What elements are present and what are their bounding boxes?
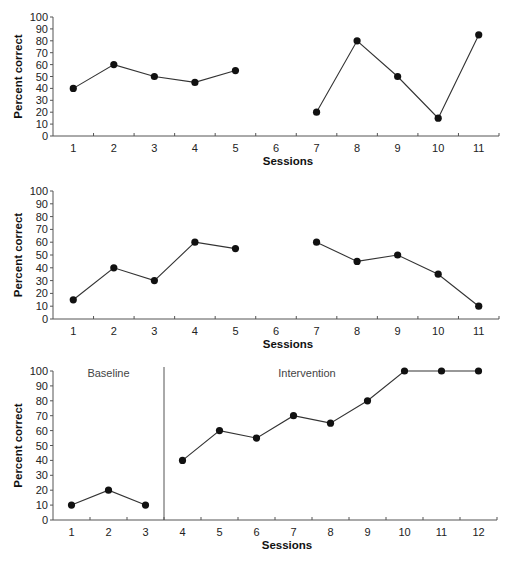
data-point — [313, 109, 320, 116]
data-point — [110, 61, 117, 68]
x-tick-label: 2 — [111, 142, 117, 154]
y-tick-label: 100 — [30, 185, 48, 197]
data-point — [151, 277, 158, 284]
data-point — [151, 73, 158, 80]
data-point — [435, 271, 442, 278]
data-point — [353, 37, 360, 44]
y-tick-label: 50 — [36, 249, 48, 261]
y-tick-label: 20 — [36, 106, 48, 118]
phase-label-baseline: Baseline — [87, 367, 129, 379]
y-tick-label: 70 — [36, 410, 48, 422]
data-point — [191, 239, 198, 246]
y-tick-label: 90 — [36, 23, 48, 35]
x-tick-label: 8 — [327, 526, 333, 538]
y-tick-label: 80 — [36, 211, 48, 223]
y-tick-label: 30 — [36, 275, 48, 287]
x-tick-label: 12 — [472, 526, 484, 538]
data-point — [435, 115, 442, 122]
data-point — [70, 85, 77, 92]
y-tick-label: 40 — [36, 262, 48, 274]
data-point — [191, 79, 198, 86]
data-point — [253, 434, 260, 441]
x-tick-label: 7 — [313, 325, 319, 337]
x-tick-label: 2 — [111, 325, 117, 337]
x-tick-label: 6 — [253, 526, 259, 538]
x-tick-label: 11 — [473, 325, 484, 337]
x-tick-label: 6 — [273, 142, 279, 154]
data-line-segment-2 — [183, 371, 479, 460]
x-tick-label: 4 — [192, 325, 198, 337]
x-tick-label: 10 — [432, 325, 444, 337]
y-tick-label: 10 — [36, 300, 48, 312]
data-point — [68, 502, 75, 509]
x-tick-label: 5 — [232, 142, 238, 154]
data-point — [232, 67, 239, 74]
data-point — [313, 239, 320, 246]
data-point — [105, 487, 112, 494]
y-tick-label: 90 — [36, 380, 48, 392]
y-tick-label: 80 — [36, 395, 48, 407]
x-tick-label: 1 — [70, 142, 76, 154]
y-tick-label: 50 — [36, 71, 48, 83]
y-tick-label: 60 — [36, 59, 48, 71]
y-tick-label: 80 — [36, 35, 48, 47]
x-tick-label: 7 — [313, 142, 319, 154]
data-point — [394, 251, 401, 258]
data-line-segment-1 — [73, 242, 235, 300]
x-tick-label: 9 — [395, 325, 401, 337]
y-tick-label: 60 — [36, 425, 48, 437]
data-point — [327, 420, 334, 427]
data-point — [216, 427, 223, 434]
data-point — [475, 303, 482, 310]
x-tick-label: 9 — [364, 526, 370, 538]
x-tick-label: 8 — [354, 142, 360, 154]
data-point — [364, 397, 371, 404]
y-tick-label: 10 — [36, 499, 48, 511]
data-point — [438, 367, 445, 374]
y-tick-label: 40 — [36, 82, 48, 94]
y-tick-label: 100 — [30, 11, 48, 23]
y-tick-label: 20 — [36, 287, 48, 299]
x-tick-label: 4 — [179, 526, 185, 538]
x-tick-label: 3 — [151, 142, 157, 154]
y-axis-title: Percent correct — [12, 403, 24, 488]
y-tick-label: 0 — [42, 130, 48, 142]
chart-panel-1: 01020304050607080901001234567891011Sessi… — [12, 11, 499, 167]
x-axis-title: Sessions — [263, 155, 314, 167]
chart-panel-2: 01020304050607080901001234567891011Sessi… — [12, 185, 499, 350]
y-tick-label: 70 — [36, 47, 48, 59]
y-tick-label: 100 — [30, 365, 48, 377]
x-axis-title: Sessions — [262, 539, 313, 551]
x-tick-label: 10 — [432, 142, 444, 154]
y-tick-label: 30 — [36, 469, 48, 481]
x-tick-label: 11 — [436, 526, 447, 538]
x-tick-label: 5 — [232, 325, 238, 337]
y-tick-label: 90 — [36, 198, 48, 210]
y-tick-label: 0 — [42, 514, 48, 526]
data-point — [401, 367, 408, 374]
data-point — [142, 502, 149, 509]
x-tick-label: 6 — [273, 325, 279, 337]
x-tick-label: 9 — [395, 142, 401, 154]
y-tick-label: 60 — [36, 236, 48, 248]
data-point — [110, 264, 117, 271]
multi-panel-line-chart: 01020304050607080901001234567891011Sessi… — [0, 0, 510, 562]
data-point — [232, 245, 239, 252]
y-axis-title: Percent correct — [12, 34, 24, 119]
x-tick-label: 2 — [105, 526, 111, 538]
x-tick-label: 3 — [151, 325, 157, 337]
x-tick-label: 1 — [68, 526, 74, 538]
x-tick-label: 8 — [354, 325, 360, 337]
y-axis-title: Percent correct — [12, 213, 24, 298]
x-tick-label: 1 — [70, 325, 76, 337]
data-point — [70, 296, 77, 303]
data-point — [475, 367, 482, 374]
x-tick-label: 11 — [473, 142, 484, 154]
x-tick-label: 10 — [398, 526, 410, 538]
x-tick-label: 7 — [290, 526, 296, 538]
x-axis-title: Sessions — [263, 338, 314, 350]
data-point — [394, 73, 401, 80]
y-tick-label: 20 — [36, 484, 48, 496]
phase-label-intervention: Intervention — [278, 367, 335, 379]
data-point — [290, 412, 297, 419]
